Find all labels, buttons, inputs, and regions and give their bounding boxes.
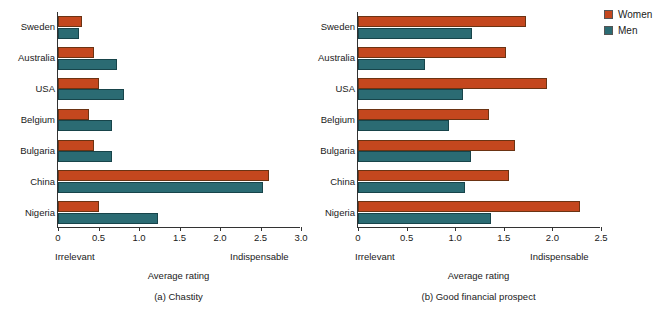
bar-a-australia-women (58, 47, 94, 58)
bar-b-usa-women (358, 78, 547, 89)
xtick-a-3 (180, 227, 181, 231)
panel-a-category-labels: SwedenAustraliaUSABelgiumBulgariaChinaNi… (1, 12, 55, 228)
bar-a-nigeria-men (58, 213, 158, 224)
bar-a-bulgaria-women (58, 140, 94, 151)
xtick-label-b-5: 2.5 (594, 232, 607, 243)
legend-item-women: Women (604, 7, 668, 21)
panel-good-financial-prospect: SwedenAustraliaUSABelgiumBulgariaChinaNi… (300, 0, 620, 310)
bar-a-belgium-women (58, 109, 89, 120)
bar-a-china-women (58, 170, 269, 181)
bar-a-sweden-men (58, 28, 79, 39)
xtick-a-0 (58, 227, 59, 231)
xtick-a-4 (220, 227, 221, 231)
legend-swatch-women-icon (604, 10, 613, 19)
bar-b-nigeria-women (358, 201, 580, 212)
category-label-b-belgium: Belgium (301, 115, 355, 125)
xtick-label-a-1: 0.5 (92, 232, 105, 243)
bar-b-usa-men (358, 89, 463, 100)
panel-a-anchor-low: Irrelevant (55, 251, 95, 262)
bar-a-nigeria-women (58, 201, 99, 212)
category-label-a-belgium: Belgium (1, 115, 55, 125)
category-label-a-usa: USA (1, 84, 55, 94)
bar-b-sweden-men (358, 28, 472, 39)
bar-b-china-women (358, 170, 509, 181)
category-label-b-china: China (301, 177, 355, 187)
bar-a-usa-men (58, 89, 124, 100)
figure-two-panel-bar-charts: SwedenAustraliaUSABelgiumBulgariaChinaNi… (0, 0, 668, 310)
xtick-b-1 (407, 227, 408, 231)
category-label-b-australia: Australia (301, 53, 355, 63)
bar-a-usa-women (58, 78, 99, 89)
xtick-b-2 (455, 227, 456, 231)
panel-b-xaxis-title: Average rating (357, 270, 600, 281)
panel-b-anchor-high: Indispensable (530, 251, 589, 262)
bar-a-china-men (58, 182, 263, 193)
bar-b-australia-women (358, 47, 506, 58)
bar-b-belgium-men (358, 120, 449, 131)
category-label-a-bulgaria: Bulgaria (1, 146, 55, 156)
xtick-a-1 (99, 227, 100, 231)
legend-item-men: Men (604, 23, 668, 37)
panel-a-anchor-high: Indispensable (230, 251, 289, 262)
bar-a-sweden-women (58, 16, 82, 27)
xtick-a-5 (261, 227, 262, 231)
bar-a-belgium-men (58, 120, 112, 131)
category-label-b-bulgaria: Bulgaria (301, 146, 355, 156)
category-label-b-sweden: Sweden (301, 22, 355, 32)
legend-swatch-men-icon (604, 26, 613, 35)
xtick-label-b-1: 0.5 (400, 232, 413, 243)
xtick-b-5 (601, 227, 602, 231)
xtick-label-b-0: 0 (355, 232, 360, 243)
panel-a-caption: (a) Chastity (57, 291, 300, 302)
legend-label-men: Men (618, 25, 637, 36)
panel-b-anchor-low: Irrelevant (355, 251, 395, 262)
xtick-label-b-2: 1.0 (449, 232, 462, 243)
bar-b-bulgaria-women (358, 140, 515, 151)
bar-b-belgium-women (358, 109, 489, 120)
xtick-label-a-3: 1.5 (173, 232, 186, 243)
bar-b-sweden-women (358, 16, 526, 27)
xtick-a-2 (139, 227, 140, 231)
bar-a-bulgaria-men (58, 151, 112, 162)
xtick-label-a-0: 0 (55, 232, 60, 243)
xtick-label-a-2: 1.0 (132, 232, 145, 243)
xtick-b-3 (504, 227, 505, 231)
bar-b-bulgaria-men (358, 151, 471, 162)
bar-a-australia-men (58, 59, 117, 70)
category-label-a-australia: Australia (1, 53, 55, 63)
xtick-b-4 (552, 227, 553, 231)
panel-a-xaxis-title: Average rating (57, 270, 300, 281)
category-label-b-usa: USA (301, 84, 355, 94)
panel-a-plot-area: 00.51.01.52.02.53.0 (57, 12, 300, 228)
category-label-a-nigeria: Nigeria (1, 208, 55, 218)
bar-b-australia-men (358, 59, 425, 70)
xtick-label-a-5: 2.5 (254, 232, 267, 243)
legend: WomenMen (604, 7, 668, 39)
legend-label-women: Women (618, 9, 652, 20)
category-label-a-china: China (1, 177, 55, 187)
panel-b-plot-area: 00.51.01.52.02.5 (357, 12, 600, 228)
panel-b-caption: (b) Good financial prospect (357, 291, 600, 302)
bar-b-nigeria-men (358, 213, 491, 224)
xtick-b-0 (358, 227, 359, 231)
category-label-a-sweden: Sweden (1, 22, 55, 32)
category-label-b-nigeria: Nigeria (301, 208, 355, 218)
xtick-label-b-3: 1.5 (497, 232, 510, 243)
xtick-label-b-4: 2.0 (546, 232, 559, 243)
bar-b-china-men (358, 182, 465, 193)
panel-b-category-labels: SwedenAustraliaUSABelgiumBulgariaChinaNi… (301, 12, 355, 228)
xtick-label-a-4: 2.0 (213, 232, 226, 243)
panel-chastity: SwedenAustraliaUSABelgiumBulgariaChinaNi… (0, 0, 320, 310)
